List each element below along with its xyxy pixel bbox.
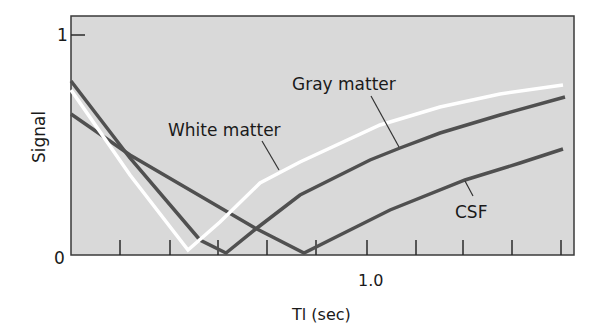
gray-matter-label: Gray matter: [292, 74, 396, 94]
x-axis-title: Tl (sec): [291, 305, 351, 324]
x-tick-label-1-0: 1.0: [358, 271, 383, 290]
y-tick-label-1: 1: [57, 25, 68, 45]
y-tick-label-0: 0: [54, 248, 65, 268]
signal-vs-ti-chart: White matter Gray matter CSF 1 0 1.0 Tl …: [0, 0, 592, 335]
csf-label: CSF: [455, 202, 487, 222]
plot-area: [71, 16, 574, 255]
y-axis-title: Signal: [29, 111, 49, 163]
white-matter-label: White matter: [168, 120, 281, 140]
